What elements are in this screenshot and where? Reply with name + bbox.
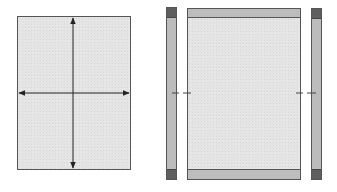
alignment-dash-marks (0, 0, 337, 192)
